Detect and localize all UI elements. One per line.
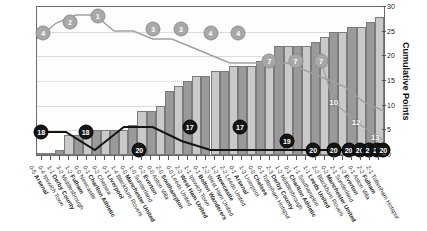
right-axis-tick-mark [382,31,386,32]
right-axis-tick-label: 30 [387,3,395,10]
position-marker: 1 [90,9,105,24]
x-axis-tick-mark [287,156,288,160]
right-axis-tick-mark [382,129,386,130]
x-axis-tick-mark [241,156,242,160]
right-axis-tick-label: 10 [387,101,395,108]
right-axis-tick-label: 0 [387,151,391,158]
x-axis-tick-mark [360,156,361,160]
x-axis-tick-mark [223,156,224,160]
position-marker: 7 [313,54,328,69]
x-axis-tick-mark [168,156,169,160]
position-marker: 7 [262,54,277,69]
position-inline-label: 12 [352,118,361,127]
right-axis-tick-label: 15 [387,77,395,84]
x-axis-tick-mark [159,156,160,160]
points-marker: 17 [182,120,197,135]
x-axis: 0-5 Arsenal0-4 Ipswich Town1-1 Derby Cou… [36,156,385,231]
right-axis-tick-mark [382,80,386,81]
x-axis-tick-mark [150,156,151,160]
x-axis-tick-mark [232,156,233,160]
position-marker: 7 [288,54,303,69]
right-axis-tick-mark [382,154,386,155]
position-marker: 3 [146,22,161,37]
position-marker: 2 [62,15,77,30]
points-marker: 18 [34,125,49,140]
position-marker: 4 [36,26,51,41]
x-axis-tick-mark [86,156,87,160]
right-axis-tick-label: 25 [387,27,395,34]
right-axis-tick-mark [382,6,386,7]
position-marker: 3 [174,22,189,37]
right-y-axis-label: Cumulative Points [398,6,414,156]
x-axis-tick-mark [95,156,96,160]
x-axis-tick-mark [296,156,297,160]
right-axis-tick-mark [382,55,386,56]
position-inline-label: 13 [371,133,380,142]
right-axis-tick-label: 5 [387,126,391,133]
points-marker: 19 [279,134,294,149]
position-inline-label: 10 [329,98,338,107]
opponent-name: Tottenham Hotspur [371,173,402,220]
x-axis-tick-mark [378,156,379,160]
position-marker: 4 [231,26,246,41]
points-marker: 18 [78,125,93,140]
plot-area: 4213344777 101213 1818201717192020202020… [36,6,385,156]
x-axis-tick-mark [104,156,105,160]
chart-canvas: 4213344777 101213 1818201717192020202020… [0,0,427,231]
x-axis-tick-mark [369,156,370,160]
points-marker: 17 [232,120,247,135]
position-marker: 4 [203,26,218,41]
x-axis-tick-mark [305,156,306,160]
right-axis-tick-mark [382,105,386,106]
right-axis-tick-label: 20 [387,52,395,59]
